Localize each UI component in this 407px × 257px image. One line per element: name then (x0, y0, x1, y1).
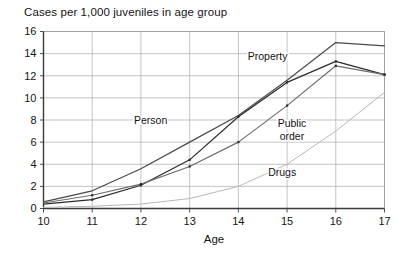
data-series-group (44, 43, 385, 208)
y-axis-tick-labels: 0246810121416 (24, 25, 36, 214)
y-axis-tick-label: 16 (24, 25, 36, 37)
series-label-public-order: Public (278, 117, 307, 129)
y-axis-tick-label: 8 (30, 114, 36, 126)
x-axis-tick-label: 16 (330, 215, 342, 227)
gridlines (44, 32, 385, 209)
series-line-property (44, 43, 385, 202)
chart-container: Cases per 1,000 juveniles in age group 0… (0, 0, 407, 257)
data-point-marker (237, 116, 239, 118)
line-chart-plot: 0246810121416 1011121314151617 PropertyP… (0, 0, 407, 257)
x-axis-tick-labels: 1011121314151617 (37, 215, 390, 227)
series-line-public-order (44, 66, 385, 203)
series-label-drugs: Drugs (268, 166, 296, 178)
axis-lines (40, 32, 385, 213)
y-axis-tick-label: 10 (24, 92, 36, 104)
data-point-marker (189, 159, 191, 161)
data-point-marker (286, 105, 288, 107)
series-label-person: Person (134, 114, 167, 126)
data-point-marker (383, 74, 385, 76)
x-axis-title: Age (204, 233, 224, 245)
data-point-marker (91, 194, 93, 196)
series-label-property: Property (248, 50, 288, 62)
data-point-marker (140, 183, 142, 185)
y-axis-tick-label: 12 (24, 70, 36, 82)
x-axis-tick-label: 12 (135, 215, 147, 227)
y-axis-tick-label: 14 (24, 47, 36, 59)
data-point-marker (189, 165, 191, 167)
data-point-marker (335, 60, 337, 62)
data-point-marker (286, 81, 288, 83)
y-axis-tick-label: 2 (30, 180, 36, 192)
series-label-public-order: order (280, 130, 305, 142)
y-axis-tick-label: 0 (30, 202, 36, 214)
data-point-marker (335, 65, 337, 67)
data-point-marker (237, 141, 239, 143)
axis-titles: Age (204, 233, 224, 245)
x-axis-tick-label: 14 (232, 215, 244, 227)
x-axis-tick-label: 10 (37, 215, 49, 227)
y-axis-tick-label: 6 (30, 136, 36, 148)
x-axis-tick-label: 17 (378, 215, 390, 227)
data-point-marker (91, 199, 93, 201)
x-axis-tick-label: 13 (184, 215, 196, 227)
x-axis-tick-label: 15 (281, 215, 293, 227)
series-inline-labels: PropertyPropertyPersonPersonPublicorderP… (134, 50, 306, 178)
x-axis-tick-label: 11 (87, 215, 98, 227)
y-axis-tick-label: 4 (30, 158, 36, 170)
